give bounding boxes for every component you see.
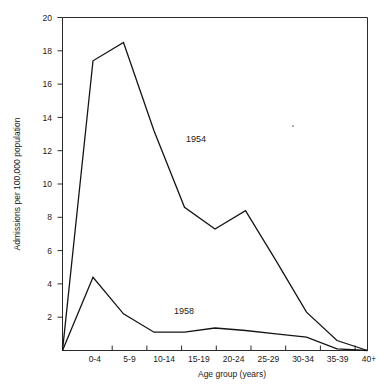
x-tick-label-10-14: 10-14 [153,354,175,364]
series-annotation-1954: 1954 [186,134,206,144]
series-annotation-1958: 1958 [174,306,194,316]
x-tick-label-40plus: 40+ [362,354,376,364]
y-tick-label-4: 4 [47,279,52,289]
axis-frame-rect [63,18,368,351]
y-tick-label-14: 14 [43,113,53,123]
y-tick-label-12: 12 [43,146,53,156]
x-tick-label-25-29: 25-29 [257,354,279,364]
y-tick-label-18: 18 [43,46,53,56]
y-tick-label-8: 8 [47,212,52,222]
x-axis-title: Age group (years) [198,369,266,379]
x-axis-tick-labels: 0-4 5-9 10-14 15-19 20-24 25-29 30-34 35… [89,354,377,364]
y-axis-ticks [58,18,63,318]
y-tick-label-10: 10 [43,179,53,189]
scan-speck [292,125,294,127]
y-tick-label-6: 6 [47,246,52,256]
y-axis-title: Admissions per 100,000 population [12,117,22,250]
x-tick-label-35-39: 35-39 [327,354,349,364]
chart-container: 20 18 16 14 12 10 8 6 4 2 0-4 5-9 10-14 [0,0,387,385]
series-line-1958 [63,277,368,350]
y-axis-tick-labels: 20 18 16 14 12 10 8 6 4 2 [43,13,53,323]
line-chart: 20 18 16 14 12 10 8 6 4 2 0-4 5-9 10-14 [0,0,387,385]
x-tick-label-5-9: 5-9 [123,354,136,364]
y-tick-label-2: 2 [47,312,52,322]
x-tick-label-30-34: 30-34 [292,354,314,364]
x-axis-ticks [112,346,355,351]
y-tick-label-16: 16 [43,79,53,89]
x-tick-label-20-24: 20-24 [223,354,245,364]
x-tick-label-0-4: 0-4 [89,354,102,364]
y-tick-label-20: 20 [43,13,53,23]
x-tick-label-15-19: 15-19 [188,354,210,364]
plot-frame [63,18,368,351]
series-line-1954 [63,42,368,350]
